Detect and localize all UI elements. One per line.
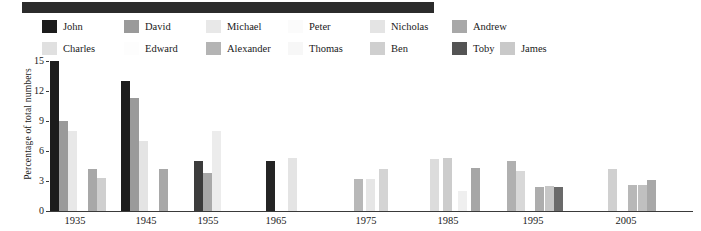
bar[interactable] bbox=[203, 173, 212, 211]
y-tick-mark bbox=[46, 181, 49, 182]
legend-label: David bbox=[145, 20, 171, 33]
bar[interactable] bbox=[628, 185, 637, 211]
y-tick-mark bbox=[46, 151, 49, 152]
bar[interactable] bbox=[97, 178, 106, 211]
legend-swatch-icon bbox=[124, 20, 139, 33]
title-banner bbox=[22, 2, 434, 13]
bar[interactable] bbox=[545, 186, 554, 211]
x-tick-label: 1985 bbox=[418, 215, 478, 227]
bar[interactable] bbox=[130, 98, 139, 211]
bar[interactable] bbox=[68, 131, 77, 211]
legend-label: Ben bbox=[391, 42, 408, 55]
legend-item-charles[interactable]: Charles bbox=[42, 41, 95, 55]
legend-swatch-icon bbox=[370, 20, 385, 33]
bar[interactable] bbox=[366, 179, 375, 211]
bar[interactable] bbox=[59, 121, 68, 211]
legend-swatch-icon bbox=[452, 42, 467, 55]
bar[interactable] bbox=[638, 185, 647, 211]
legend-swatch-icon bbox=[42, 42, 57, 55]
x-tick-label: 1945 bbox=[116, 215, 176, 227]
bar[interactable] bbox=[458, 191, 467, 211]
legend-item-toby[interactable]: Toby bbox=[452, 41, 494, 55]
legend-swatch-icon bbox=[42, 20, 57, 33]
legend-item-alexander[interactable]: Alexander bbox=[206, 41, 271, 55]
bar[interactable] bbox=[88, 169, 97, 211]
legend-label: Nicholas bbox=[391, 20, 428, 33]
chart-figure: JohnDavidMichaelPeterNicholasAndrewJames… bbox=[0, 0, 701, 231]
legend-item-thomas[interactable]: Thomas bbox=[288, 41, 343, 55]
legend-label: Andrew bbox=[473, 20, 507, 33]
y-tick-label: 0 bbox=[22, 206, 44, 216]
bar[interactable] bbox=[379, 169, 388, 211]
chart-legend: JohnDavidMichaelPeterNicholasAndrewJames… bbox=[0, 17, 701, 61]
legend-label: Thomas bbox=[309, 42, 343, 55]
bar[interactable] bbox=[288, 158, 297, 211]
bar[interactable] bbox=[443, 158, 452, 211]
legend-label: Charles bbox=[63, 42, 95, 55]
y-tick-mark bbox=[46, 61, 49, 62]
x-tick-label: 2005 bbox=[596, 215, 656, 227]
bar[interactable] bbox=[121, 81, 130, 211]
bar[interactable] bbox=[212, 131, 221, 211]
bar[interactable] bbox=[139, 141, 148, 211]
legend-swatch-icon bbox=[288, 20, 303, 33]
x-tick-label: 1975 bbox=[336, 215, 396, 227]
y-tick-label: 6 bbox=[22, 146, 44, 156]
bar[interactable] bbox=[554, 187, 563, 211]
legend-item-michael[interactable]: Michael bbox=[206, 19, 261, 33]
y-tick-mark bbox=[46, 211, 49, 212]
legend-swatch-icon bbox=[124, 42, 139, 55]
bar[interactable] bbox=[266, 161, 275, 211]
legend-item-james[interactable]: James bbox=[500, 41, 547, 55]
legend-item-john[interactable]: John bbox=[42, 19, 83, 33]
y-tick-label: 12 bbox=[22, 86, 44, 96]
bar[interactable] bbox=[516, 171, 525, 211]
y-tick-label: 15 bbox=[22, 56, 44, 66]
legend-item-ben[interactable]: Ben bbox=[370, 41, 408, 55]
legend-item-andrew[interactable]: Andrew bbox=[452, 19, 507, 33]
legend-label: Peter bbox=[309, 20, 331, 33]
bar[interactable] bbox=[507, 161, 516, 211]
legend-label: Edward bbox=[145, 42, 178, 55]
y-tick-mark bbox=[46, 121, 49, 122]
x-axis-line bbox=[48, 211, 693, 212]
legend-swatch-icon bbox=[500, 42, 515, 55]
bar[interactable] bbox=[50, 61, 59, 211]
bar[interactable] bbox=[471, 168, 480, 211]
legend-item-david[interactable]: David bbox=[124, 19, 171, 33]
bars-container bbox=[48, 61, 698, 211]
legend-swatch-icon bbox=[288, 42, 303, 55]
y-tick-label: 9 bbox=[22, 116, 44, 126]
legend-label: Toby bbox=[473, 42, 494, 55]
plot-area: Percentage of total numbers 03691215 193… bbox=[0, 61, 701, 231]
x-tick-label: 1935 bbox=[45, 215, 105, 227]
bar[interactable] bbox=[430, 159, 439, 211]
y-tick-mark bbox=[46, 91, 49, 92]
legend-label: James bbox=[521, 42, 547, 55]
y-tick-label: 3 bbox=[22, 176, 44, 186]
bar[interactable] bbox=[535, 187, 544, 211]
legend-item-edward[interactable]: Edward bbox=[124, 41, 178, 55]
legend-item-nicholas[interactable]: Nicholas bbox=[370, 19, 428, 33]
legend-swatch-icon bbox=[206, 42, 221, 55]
legend-label: Alexander bbox=[227, 42, 271, 55]
bar[interactable] bbox=[608, 169, 617, 211]
legend-swatch-icon bbox=[206, 20, 221, 33]
bar[interactable] bbox=[194, 161, 203, 211]
bar[interactable] bbox=[354, 179, 363, 211]
x-tick-label: 1995 bbox=[503, 215, 563, 227]
legend-label: John bbox=[63, 20, 83, 33]
legend-swatch-icon bbox=[452, 20, 467, 33]
legend-swatch-icon bbox=[370, 42, 385, 55]
x-tick-label: 1965 bbox=[246, 215, 306, 227]
bar[interactable] bbox=[159, 169, 168, 211]
legend-item-peter[interactable]: Peter bbox=[288, 19, 331, 33]
legend-label: Michael bbox=[227, 20, 261, 33]
x-tick-label: 1955 bbox=[178, 215, 238, 227]
bar[interactable] bbox=[647, 180, 656, 211]
y-axis-ticks: 03691215 bbox=[20, 61, 44, 211]
